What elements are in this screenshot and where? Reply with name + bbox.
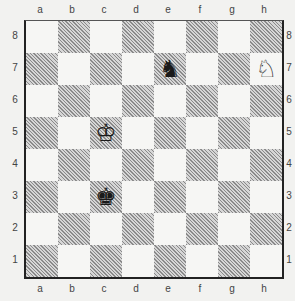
file-label-h: h <box>248 4 280 15</box>
file-label-a: a <box>24 4 56 15</box>
square-g1[interactable] <box>218 245 250 277</box>
square-b2[interactable] <box>58 213 90 245</box>
square-e1[interactable] <box>154 245 186 277</box>
square-d1[interactable] <box>122 245 154 277</box>
rank-label-3: 3 <box>8 180 22 212</box>
rank-label-8: 8 <box>8 20 22 52</box>
square-b6[interactable] <box>58 85 90 117</box>
square-b8[interactable] <box>58 21 90 53</box>
square-h1[interactable] <box>250 245 282 277</box>
rank-label-6: 6 <box>8 84 22 116</box>
square-c2[interactable] <box>90 213 122 245</box>
square-a5[interactable] <box>26 117 58 149</box>
square-b3[interactable] <box>58 181 90 213</box>
file-label-c: c <box>88 283 120 294</box>
file-label-e: e <box>152 4 184 15</box>
file-label-g: g <box>216 283 248 294</box>
file-label-g: g <box>216 4 248 15</box>
square-h3[interactable] <box>250 181 282 213</box>
square-g6[interactable] <box>218 85 250 117</box>
square-d5[interactable] <box>122 117 154 149</box>
square-h7[interactable]: ♘ <box>250 53 282 85</box>
square-d6[interactable] <box>122 85 154 117</box>
square-a3[interactable] <box>26 181 58 213</box>
square-h5[interactable] <box>250 117 282 149</box>
square-d8[interactable] <box>122 21 154 53</box>
file-label-b: b <box>56 283 88 294</box>
square-a7[interactable] <box>26 53 58 85</box>
square-c3[interactable]: ♚ <box>90 181 122 213</box>
square-c1[interactable] <box>90 245 122 277</box>
square-c6[interactable] <box>90 85 122 117</box>
square-f6[interactable] <box>186 85 218 117</box>
square-f2[interactable] <box>186 213 218 245</box>
black-knight-icon[interactable]: ♞ <box>154 53 186 85</box>
square-f7[interactable] <box>186 53 218 85</box>
chess-board: ♞ ♘ ♔ ♚ <box>24 20 284 279</box>
square-g5[interactable] <box>218 117 250 149</box>
square-h2[interactable] <box>250 213 282 245</box>
square-h4[interactable] <box>250 149 282 181</box>
square-a1[interactable] <box>26 245 58 277</box>
square-a6[interactable] <box>26 85 58 117</box>
square-e4[interactable] <box>154 149 186 181</box>
square-d4[interactable] <box>122 149 154 181</box>
square-d2[interactable] <box>122 213 154 245</box>
black-king-icon[interactable]: ♚ <box>90 181 122 213</box>
square-f4[interactable] <box>186 149 218 181</box>
rank-label-7: 7 <box>8 52 22 84</box>
file-label-f: f <box>184 4 216 15</box>
square-g8[interactable] <box>218 21 250 53</box>
square-f8[interactable] <box>186 21 218 53</box>
square-e7[interactable]: ♞ <box>154 53 186 85</box>
file-label-c: c <box>88 4 120 15</box>
square-h8[interactable] <box>250 21 282 53</box>
square-f3[interactable] <box>186 181 218 213</box>
square-b4[interactable] <box>58 149 90 181</box>
square-e5[interactable] <box>154 117 186 149</box>
file-label-h: h <box>248 283 280 294</box>
square-e6[interactable] <box>154 85 186 117</box>
file-label-e: e <box>152 283 184 294</box>
square-a4[interactable] <box>26 149 58 181</box>
file-label-d: d <box>120 4 152 15</box>
square-b1[interactable] <box>58 245 90 277</box>
square-a2[interactable] <box>26 213 58 245</box>
file-label-d: d <box>120 283 152 294</box>
square-e2[interactable] <box>154 213 186 245</box>
square-h6[interactable] <box>250 85 282 117</box>
square-b5[interactable] <box>58 117 90 149</box>
square-d7[interactable] <box>122 53 154 85</box>
square-f5[interactable] <box>186 117 218 149</box>
square-c5[interactable]: ♔ <box>90 117 122 149</box>
square-g2[interactable] <box>218 213 250 245</box>
square-c7[interactable] <box>90 53 122 85</box>
rank-label-1: 1 <box>8 244 22 276</box>
file-label-f: f <box>184 283 216 294</box>
square-b7[interactable] <box>58 53 90 85</box>
square-g4[interactable] <box>218 149 250 181</box>
square-c4[interactable] <box>90 149 122 181</box>
file-label-a: a <box>24 283 56 294</box>
white-king-icon[interactable]: ♔ <box>90 117 122 149</box>
file-label-b: b <box>56 4 88 15</box>
rank-label-4: 4 <box>8 148 22 180</box>
square-a8[interactable] <box>26 21 58 53</box>
square-c8[interactable] <box>90 21 122 53</box>
square-f1[interactable] <box>186 245 218 277</box>
square-g3[interactable] <box>218 181 250 213</box>
white-knight-icon[interactable]: ♘ <box>250 53 282 85</box>
square-e8[interactable] <box>154 21 186 53</box>
square-d3[interactable] <box>122 181 154 213</box>
square-g7[interactable] <box>218 53 250 85</box>
rank-label-5: 5 <box>8 116 22 148</box>
rank-label-2: 2 <box>8 212 22 244</box>
square-e3[interactable] <box>154 181 186 213</box>
